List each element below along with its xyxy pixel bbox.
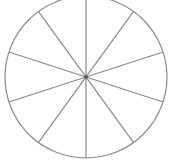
divided-circle-diagram xyxy=(0,0,172,164)
spoke-lines xyxy=(9,0,163,158)
center-point xyxy=(84,75,88,79)
